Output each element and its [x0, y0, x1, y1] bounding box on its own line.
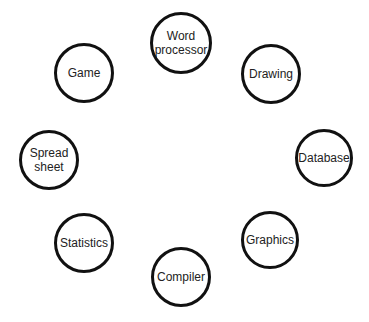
node-drawing: Drawing	[241, 44, 301, 104]
node-word-processor: Word processor	[150, 12, 212, 74]
node-label: Compiler	[157, 270, 205, 284]
node-label: Graphics	[246, 233, 294, 247]
node-database: Database	[295, 129, 353, 187]
node-spreadsheet: Spread sheet	[19, 130, 79, 190]
node-label: Statistics	[60, 236, 108, 250]
node-label: Drawing	[249, 67, 293, 81]
node-statistics: Statistics	[54, 213, 114, 273]
node-label: Word processor	[155, 29, 208, 57]
node-label: Spread sheet	[30, 146, 69, 174]
node-game: Game	[54, 43, 114, 103]
node-label: Game	[68, 66, 101, 80]
node-compiler: Compiler	[151, 247, 211, 307]
node-graphics: Graphics	[241, 211, 299, 269]
node-label: Database	[298, 151, 349, 165]
